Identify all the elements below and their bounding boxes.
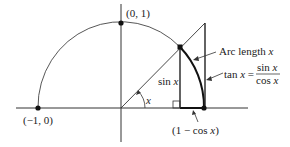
label-angle-x: x: [145, 94, 151, 106]
cos-leader-arrowhead: [192, 110, 196, 115]
label-neg-one-zero: (−1, 0): [23, 114, 53, 127]
point-one-zero: [201, 105, 206, 110]
arc-leader: [196, 52, 216, 59]
point-neg-one-zero: [35, 105, 40, 110]
arc-leader-arrowhead: [193, 56, 199, 61]
right-angle-marker: [173, 101, 180, 108]
arc-length-segment: [180, 47, 204, 108]
unit-circle-diagram: (−1, 0) (0, 1) x sin x (1 − cos x) Arc l…: [0, 0, 290, 147]
radius-line: [121, 23, 205, 108]
label-tan-num: sin x: [257, 61, 278, 73]
unit-circle-arc: [38, 22, 180, 108]
label-arc-length: Arc length x: [219, 45, 273, 57]
point-on-circle: [178, 45, 183, 50]
label-zero-one: (0, 1): [126, 7, 150, 20]
point-zero-one: [118, 20, 123, 25]
label-tan-den: cos x: [256, 74, 278, 86]
tan-leader-arrowhead: [206, 76, 212, 81]
label-one-minus-cos: (1 − cos x): [172, 124, 219, 137]
label-sin-x: sin x: [158, 75, 179, 87]
label-tan-lhs: tan x =: [224, 68, 254, 80]
